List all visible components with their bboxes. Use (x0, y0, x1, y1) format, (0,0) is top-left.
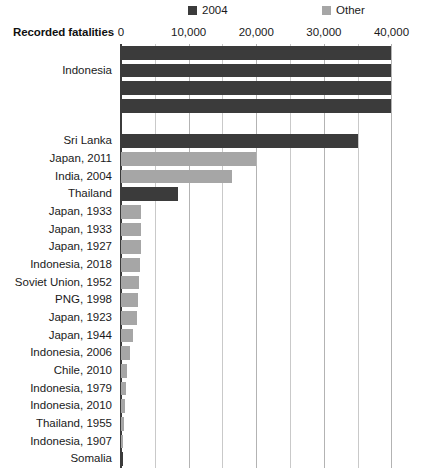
category-label: Japan, 1927 (49, 241, 112, 253)
bar-row (121, 79, 405, 97)
bar-row (121, 203, 405, 221)
bar (121, 346, 130, 360)
x-axis-tick-labels: 010,00020,00030,00040,000 (0, 26, 439, 42)
bar-row (121, 327, 405, 345)
x-tick-label: 0 (118, 26, 124, 38)
bar (121, 99, 391, 113)
bar-row (121, 256, 405, 274)
bar (121, 81, 391, 95)
bar-row (121, 150, 405, 168)
bar (121, 417, 124, 431)
category-label: Thailand (68, 188, 112, 200)
bar-row (121, 433, 405, 451)
category-label: Japan, 1933 (49, 224, 112, 236)
bar-row (121, 238, 405, 256)
bar-row (121, 344, 405, 362)
bar (121, 399, 125, 413)
legend-item-other: Other (322, 4, 365, 16)
plot-area (121, 44, 405, 468)
bar (121, 170, 232, 184)
bar (121, 276, 139, 290)
category-label: Japan, 2011 (50, 153, 112, 165)
bar (121, 240, 141, 254)
category-label: Indonesia, 1979 (30, 383, 112, 395)
bar-row (121, 132, 405, 150)
category-label: Japan, 1923 (49, 312, 112, 324)
category-label: Indonesia, 2010 (30, 400, 112, 412)
bar-row (121, 274, 405, 292)
bar (121, 311, 137, 325)
bar (121, 435, 123, 449)
bar-row (121, 221, 405, 239)
bar (121, 46, 391, 60)
bar-row (121, 415, 405, 433)
x-tick-label: 30,000 (306, 26, 341, 38)
category-label: Indonesia, 2018 (30, 259, 112, 271)
category-label: India, 2004 (55, 171, 112, 183)
y-axis-category-labels: IndonesiaSri LankaJapan, 2011India, 2004… (0, 44, 117, 468)
category-label: Indonesia, 1907 (30, 436, 112, 448)
bar-row (121, 168, 405, 186)
bar (121, 187, 178, 201)
bar-row (121, 97, 405, 115)
legend-swatch-2004 (188, 6, 197, 15)
bar-row (121, 450, 405, 468)
legend-swatch-other (322, 6, 331, 15)
legend-label-2004: 2004 (202, 4, 228, 16)
bar-row (121, 397, 405, 415)
bar-row (121, 309, 405, 327)
x-tick-label: 40,000 (374, 26, 409, 38)
bar-chart: 2004 Other Recorded fatalities 010,00020… (0, 0, 439, 473)
bar (121, 134, 358, 148)
bar-row (121, 380, 405, 398)
bar-rows (121, 44, 405, 468)
category-label: Japan, 1944 (49, 330, 112, 342)
bar-row (121, 185, 405, 203)
bar (121, 329, 133, 343)
bar (121, 364, 127, 378)
category-label: Soviet Union, 1952 (15, 277, 112, 289)
x-tick-label: 20,000 (239, 26, 274, 38)
x-tick-label: 10,000 (171, 26, 206, 38)
bar-row (121, 115, 405, 133)
category-label: Somalia (70, 453, 112, 465)
category-label: Japan, 1933 (49, 206, 112, 218)
bar-row (121, 362, 405, 380)
bar-row (121, 291, 405, 309)
bar (121, 258, 140, 272)
category-label: Chile, 2010 (54, 365, 112, 377)
category-label: Thailand, 1955 (36, 418, 112, 430)
bar (121, 64, 391, 78)
bar (121, 293, 138, 307)
category-label: Sri Lanka (63, 135, 112, 147)
category-label: Indonesia, 2006 (30, 347, 112, 359)
category-label: PNG, 1998 (55, 294, 112, 306)
legend-item-2004: 2004 (188, 4, 228, 16)
bar-row (121, 44, 405, 62)
legend-label-other: Other (336, 4, 365, 16)
bar-row (121, 62, 405, 80)
bar (121, 205, 141, 219)
bar (121, 223, 141, 237)
bar (121, 152, 256, 166)
bar (121, 452, 123, 466)
chart-legend: 2004 Other (0, 4, 439, 22)
bar (121, 382, 126, 396)
category-label: Indonesia (62, 65, 112, 77)
